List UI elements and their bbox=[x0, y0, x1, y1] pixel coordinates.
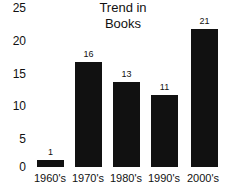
bar-1980s bbox=[113, 82, 140, 167]
bar-1990s bbox=[151, 95, 178, 167]
y-axis-tick-25: 25 bbox=[0, 2, 26, 14]
bar-value-1980s: 13 bbox=[113, 70, 140, 79]
bar-value-1990s: 11 bbox=[151, 83, 178, 92]
x-axis-label-2000s: 2000's bbox=[181, 172, 225, 184]
bar-1960s bbox=[37, 160, 64, 167]
plot-area: 25 20 15 10 5 0 1 16 13 11 21 bbox=[0, 0, 225, 193]
bar-chart: Trend in Books 25 20 15 10 5 0 1 16 13 1… bbox=[0, 0, 225, 193]
y-axis-tick-0: 0 bbox=[0, 161, 26, 173]
y-axis-tick-20: 20 bbox=[0, 35, 26, 47]
bar-value-1970s: 16 bbox=[75, 50, 102, 59]
y-axis-tick-5: 5 bbox=[0, 133, 26, 145]
y-axis-tick-10: 10 bbox=[0, 100, 26, 112]
bar-2000s bbox=[191, 29, 218, 167]
x-axis-label-1990s: 1990's bbox=[142, 172, 186, 184]
bar-value-2000s: 21 bbox=[191, 17, 218, 26]
bar-1970s bbox=[75, 62, 102, 167]
bar-value-1960s: 1 bbox=[37, 148, 64, 157]
y-axis-tick-15: 15 bbox=[0, 68, 26, 80]
